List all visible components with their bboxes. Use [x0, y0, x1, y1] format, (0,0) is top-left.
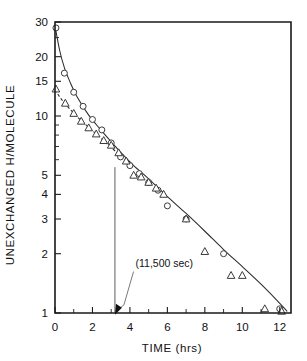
x-tick-label: 10: [236, 321, 249, 333]
y-tick-label: 10: [35, 110, 48, 122]
data-series-group: [52, 25, 285, 314]
data-point-triangle: [52, 85, 60, 92]
y-tick-label: 20: [35, 51, 48, 63]
y-tick-label: 4: [42, 188, 49, 200]
data-point-circle: [99, 127, 105, 133]
x-tick-label: 0: [52, 321, 58, 333]
x-axis-title: TIME (hrs): [142, 342, 202, 354]
semilog-exchange-plot: 1234510152030024681012 (11,500 sec) TIME…: [0, 0, 307, 361]
data-point-triangle: [100, 137, 108, 144]
axis-ticks-group: [55, 22, 280, 313]
data-point-triangle: [239, 272, 247, 279]
plot-frame: [55, 22, 291, 313]
data-point-circle: [164, 203, 170, 209]
y-tick-label: 1: [42, 307, 48, 319]
data-point-circle: [71, 89, 77, 95]
y-tick-label: 30: [35, 16, 48, 28]
x-tick-label: 2: [89, 321, 95, 333]
data-point-circle: [61, 70, 67, 76]
y-axis-title: UNEXCHANGED H/MOLECULE: [4, 85, 16, 266]
data-point-triangle: [201, 248, 209, 255]
y-tick-label: 2: [42, 248, 48, 260]
y-tick-label: 15: [35, 75, 48, 87]
x-tick-label: 6: [164, 321, 170, 333]
x-tick-label: 8: [202, 321, 208, 333]
y-tick-label: 3: [42, 213, 48, 225]
data-point-triangle: [227, 272, 235, 279]
series-circles: [53, 25, 283, 312]
series-triangles: [52, 85, 285, 314]
axis-tick-labels-group: 1234510152030024681012: [35, 16, 286, 333]
annotation-leader: [118, 272, 134, 310]
data-point-circle: [221, 251, 227, 257]
figure-container: 1234510152030024681012 (11,500 sec) TIME…: [0, 0, 307, 361]
x-tick-label: 4: [127, 321, 134, 333]
data-point-circle: [80, 103, 86, 109]
data-point-circle: [53, 25, 59, 31]
x-tick-label: 12: [273, 321, 286, 333]
annotation-label: (11,500 sec): [136, 257, 194, 269]
axes-frame-group: [55, 22, 291, 313]
data-point-triangle: [261, 305, 269, 312]
data-point-circle: [89, 116, 95, 122]
y-tick-label: 5: [42, 169, 48, 181]
annotation-group: (11,500 sec): [115, 257, 193, 315]
